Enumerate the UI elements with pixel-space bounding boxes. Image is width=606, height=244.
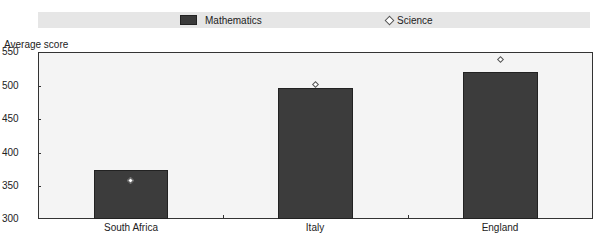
y-tick-mark (38, 153, 41, 154)
legend: Mathematics Science (38, 12, 590, 28)
legend-label-mathematics: Mathematics (205, 15, 262, 26)
bar-mathematics-italy (278, 88, 353, 219)
y-tick-mark (38, 86, 41, 87)
bar-mathematics-england (463, 72, 538, 219)
y-tick-label: 350 (2, 180, 28, 191)
legend-label-science: Science (397, 15, 433, 26)
legend-item-science: Science (386, 12, 433, 28)
diamond-marker-icon (385, 15, 395, 25)
y-tick-mark (38, 186, 41, 187)
x-label-england: England (440, 222, 560, 233)
x-tick-mark (223, 215, 224, 219)
y-tick-label: 450 (2, 113, 28, 124)
x-label-south-africa: South Africa (71, 222, 191, 233)
x-label-italy: Italy (255, 222, 375, 233)
y-tick-label: 500 (2, 80, 28, 91)
y-tick-label: 550 (2, 46, 28, 57)
y-tick-label: 400 (2, 147, 28, 158)
legend-item-mathematics: Mathematics (180, 12, 262, 28)
y-tick-mark (38, 119, 41, 120)
x-tick-mark (408, 215, 409, 219)
bar-swatch-icon (180, 15, 197, 25)
y-tick-label: 300 (2, 213, 28, 224)
